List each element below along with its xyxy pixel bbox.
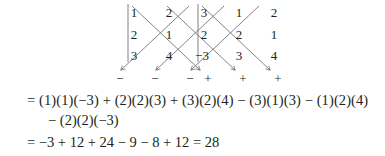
equation-line-3: = −3 + 12 + 24 − 9 − 8 + 12 = 28 (27, 132, 219, 152)
matrix-cell-r1c1: 1 (124, 6, 144, 19)
equation-line-2: − (2)(2)(−3) (48, 110, 119, 130)
repeat-cell-r2c2: 1 (264, 28, 284, 41)
matrix-cell-r3c3: −3 (190, 49, 214, 62)
sign-minus-3: − (183, 72, 197, 85)
sign-minus-2: − (148, 72, 162, 85)
sign-plus-2: + (236, 72, 250, 85)
matrix-cell-r1c3: 3 (194, 6, 214, 19)
sign-minus-1: − (113, 72, 127, 85)
repeat-cell-r3c1: 3 (229, 49, 249, 62)
matrix-cell-r2c1: 2 (124, 28, 144, 41)
sign-plus-3: + (271, 72, 285, 85)
matrix-cell-r2c2: 1 (159, 28, 179, 41)
repeat-cell-r3c2: 4 (264, 49, 284, 62)
matrix-cell-r3c2: 4 (159, 49, 179, 62)
repeat-cell-r1c2: 2 (264, 6, 284, 19)
matrix-cell-r1c2: 2 (159, 6, 179, 19)
matrix-cell-r2c3: 2 (194, 28, 214, 41)
sign-plus-1: + (201, 72, 215, 85)
equation-line-1: = (1)(1)(−3) + (2)(2)(3) + (3)(2)(4) − (… (27, 90, 368, 110)
repeat-cell-r2c1: 2 (229, 28, 249, 41)
repeat-cell-r1c1: 1 (229, 6, 249, 19)
determinant-sarrus-figure: 1 2 3 2 1 2 3 4 −3 1 2 2 1 3 4 − − − + +… (0, 0, 385, 156)
sarrus-diagram: 1 2 3 2 1 2 3 4 −3 1 2 2 1 3 4 − − − + +… (108, 0, 283, 88)
matrix-cell-r3c1: 3 (124, 49, 144, 62)
